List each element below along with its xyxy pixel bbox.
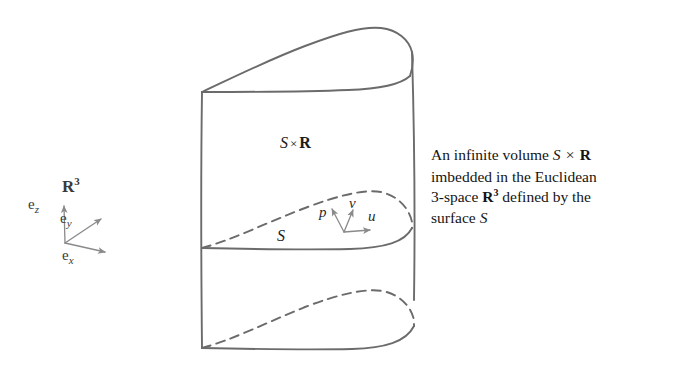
vector-to-p [332, 209, 344, 232]
label-basis-ex: ex [62, 248, 74, 263]
right-wall-edge [412, 52, 414, 300]
label-point-p: p [319, 205, 327, 220]
caption-line-4: surface S [431, 208, 671, 229]
vector-v [344, 210, 353, 232]
label-euclidean-3space: R3 [62, 178, 80, 195]
label-surface-s: S [277, 228, 285, 244]
label-basis-ez: ez [28, 197, 39, 212]
left-wall-edge [201, 92, 202, 348]
figure-page: R3 ez ey ex S×R S p v u An infinite volu… [0, 0, 691, 366]
volume-outline [201, 28, 414, 350]
top-surface-curve [202, 28, 413, 92]
caption-line-3: 3-space R3 defined by the [431, 187, 671, 208]
figure-caption: An infinite volume S × R imbedded in the… [431, 145, 671, 228]
caption-line-2: imbedded in the Euclidean [431, 167, 671, 188]
tangent-vectors [332, 209, 370, 232]
caption-line-1: An infinite volume S × R [431, 145, 671, 167]
surface-S-back-edge [202, 191, 412, 248]
surface-S-front-edge [202, 228, 412, 249]
top-surface-front-edge [202, 76, 410, 92]
label-tangent-v: v [349, 196, 356, 211]
bottom-back-edge [202, 290, 414, 348]
label-basis-ey: ey [60, 211, 72, 226]
label-volume-s-times-r: S×R [280, 135, 311, 151]
vector-u [344, 230, 370, 232]
label-tangent-u: u [368, 209, 376, 224]
